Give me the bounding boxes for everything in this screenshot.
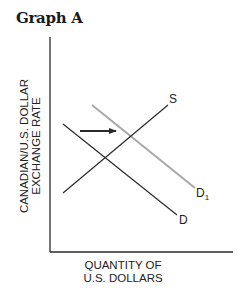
demand-curve-d [63,124,177,215]
x-axis-label-line1: QUANTITY OF [63,259,183,272]
demand-shifted-label: D1 [196,186,210,202]
x-axis-label-line2: U.S. DOLLARS [63,272,183,285]
supply-label: S [169,92,177,106]
demand-shifted-label-main: D [196,186,205,200]
x-axis-label: QUANTITY OF U.S. DOLLARS [63,259,183,285]
demand-curve-d1 [92,105,195,188]
demand-shifted-label-subscript: 1 [205,193,210,202]
supply-demand-graph: S D1 D [0,0,243,293]
demand-label: D [179,213,188,227]
supply-curve-s [63,105,168,193]
